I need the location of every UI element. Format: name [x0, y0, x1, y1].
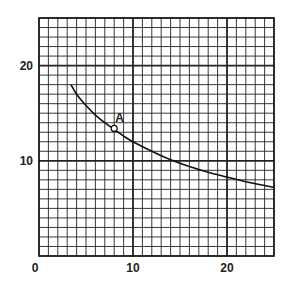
y-axis-tick-labels: 1020 — [20, 59, 34, 168]
point-a-label: A — [115, 111, 124, 125]
major-grid — [39, 18, 274, 256]
x-axis-tick-labels: 01020 — [32, 261, 234, 275]
y-tick-label: 10 — [20, 154, 34, 168]
x-tick-label: 0 — [32, 261, 39, 275]
x-tick-label: 20 — [220, 261, 234, 275]
minor-grid — [39, 18, 274, 256]
x-tick-label: 10 — [126, 261, 140, 275]
plot-frame — [39, 18, 274, 256]
y-tick-label: 20 — [20, 59, 34, 73]
data-curve — [71, 85, 274, 188]
point-a-marker — [111, 125, 117, 131]
chart: A 01020 1020 — [0, 0, 286, 290]
